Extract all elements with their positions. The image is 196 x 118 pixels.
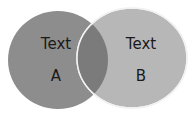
venn-diagram: Text A Text B bbox=[0, 0, 196, 118]
circle-b-title: Text bbox=[125, 35, 156, 53]
circle-a-title: Text bbox=[40, 35, 71, 53]
circle-b-label: B bbox=[136, 67, 146, 85]
circle-a-label: A bbox=[51, 67, 62, 85]
